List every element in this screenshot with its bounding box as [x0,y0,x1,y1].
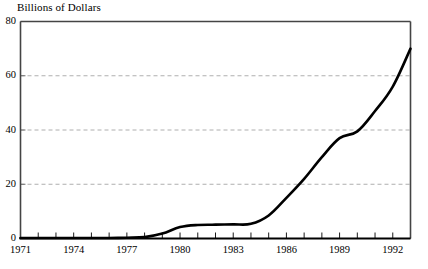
gridlines-group [21,76,411,185]
x-tick-label-1974: 1974 [57,244,91,255]
x-tick-label-1989: 1989 [323,244,357,255]
x-tick-label-1992: 1992 [376,244,410,255]
y-tick-label-20: 20 [0,179,16,189]
data-line-series-0 [21,49,411,238]
x-tick-label-1977: 1977 [110,244,144,255]
chart-container: Billions of Dollars 020406080 1971197419… [0,0,428,269]
x-tick-label-1980: 1980 [163,244,197,255]
y-tick-label-60: 60 [0,70,16,80]
y-tick-label-40: 40 [0,125,16,135]
x-tick-label-1971: 1971 [4,244,38,255]
x-tick-label-1983: 1983 [216,244,250,255]
y-tick-label-80: 80 [0,16,16,26]
x-tick-label-1986: 1986 [269,244,303,255]
plot-area [0,0,428,269]
y-tick-label-0: 0 [0,233,16,243]
